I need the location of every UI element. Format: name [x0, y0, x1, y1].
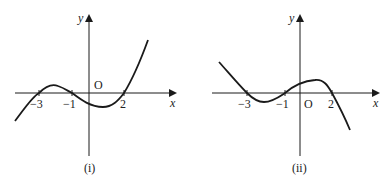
y-axis-label: y	[77, 11, 84, 25]
graph-i: y x O −3 −1 2 (i)	[15, 11, 176, 175]
caption-ii: (ii)	[292, 161, 307, 175]
tick-label-neg1: −1	[63, 97, 76, 111]
origin-label: O	[94, 78, 103, 92]
graph-ii: y x O −3 −1 2 (ii)	[212, 11, 379, 175]
x-axis-label: x	[372, 96, 379, 110]
tick-label-2: 2	[328, 97, 334, 111]
x-axis-label: x	[169, 96, 176, 110]
figure-canvas: y x O −3 −1 2 (i) y x O −3 −1 2 (ii)	[0, 0, 388, 184]
tick-label-neg1: −1	[276, 97, 289, 111]
y-axis-label: y	[288, 11, 295, 25]
caption-i: (i)	[84, 161, 95, 175]
origin-label: O	[304, 97, 313, 111]
tick-label-neg3: −3	[238, 97, 251, 111]
tick-label-2: 2	[120, 97, 126, 111]
tick-label-neg3: −3	[30, 97, 43, 111]
